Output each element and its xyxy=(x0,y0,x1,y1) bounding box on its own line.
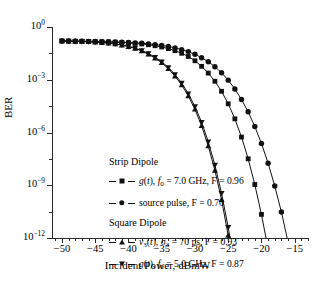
data-marker xyxy=(232,116,237,121)
legend-group-heading: Strip Dipole xyxy=(109,153,244,170)
data-marker xyxy=(219,70,224,75)
legend-marker-circle-icon xyxy=(109,198,135,208)
y-tick-label: 100 xyxy=(31,21,45,31)
data-marker xyxy=(199,123,205,128)
x-tick-minor xyxy=(175,238,176,241)
data-marker xyxy=(199,64,204,69)
x-tick-label: −25 xyxy=(220,243,236,254)
legend-marker-square-icon xyxy=(109,176,135,186)
data-marker xyxy=(246,156,251,161)
x-tick-minor xyxy=(248,238,249,241)
y-tick-major xyxy=(47,185,52,186)
x-tick-label: −45 xyxy=(87,243,103,254)
x-tick-minor xyxy=(135,238,136,241)
x-tick-minor xyxy=(215,238,216,241)
figure-canvas: BER 10010−310−610−910−12 Strip Dipoleg(t… xyxy=(0,0,315,283)
data-marker xyxy=(219,89,224,94)
data-marker xyxy=(259,141,264,146)
x-axis-title: Incident Power, dBmW xyxy=(0,259,315,271)
x-tick-minor xyxy=(281,238,282,241)
x-tick-minor xyxy=(308,238,309,241)
data-marker xyxy=(226,101,231,106)
data-marker xyxy=(192,106,198,111)
x-tick-label: −30 xyxy=(187,243,203,254)
x-tick-minor xyxy=(255,238,256,241)
legend-entry-label: g(t), f0 = 7.0 GHz, F = 0.96 xyxy=(139,176,244,186)
data-marker xyxy=(245,109,250,114)
plot-area: Strip Dipoleg(t), f0 = 7.0 GHz, F = 0.96… xyxy=(52,27,308,238)
data-marker xyxy=(232,86,237,91)
y-tick-label: 10−12 xyxy=(23,232,45,242)
data-marker xyxy=(205,143,211,148)
x-tick-minor xyxy=(115,238,116,241)
y-tick-minor xyxy=(49,212,52,213)
legend-entry-strip_gt_7ghz[interactable]: g(t), f0 = 7.0 GHz, F = 0.96 xyxy=(109,170,244,192)
data-marker xyxy=(146,42,151,47)
data-marker xyxy=(185,93,191,98)
y-tick-minor xyxy=(49,106,52,107)
data-marker xyxy=(206,71,211,76)
data-marker xyxy=(133,41,138,46)
data-marker xyxy=(166,46,171,51)
x-tick-minor xyxy=(242,238,243,241)
x-tick-minor xyxy=(202,238,203,241)
x-tick-label: −35 xyxy=(153,243,169,254)
data-marker xyxy=(213,79,218,84)
data-marker xyxy=(239,135,244,140)
y-tick-label: 10−9 xyxy=(27,179,45,189)
data-marker xyxy=(193,58,198,63)
x-tick-minor xyxy=(268,238,269,241)
data-marker xyxy=(259,212,264,217)
data-marker xyxy=(186,54,191,59)
legend-entry-strip_source_pulse[interactable]: source pulse, F = 0.70 xyxy=(109,192,244,214)
x-tick-label: −50 xyxy=(54,243,70,254)
x-tick-minor xyxy=(275,238,276,241)
y-tick-label: 10−6 xyxy=(27,127,45,137)
x-tick-label: −20 xyxy=(253,243,269,254)
y-tick-minor xyxy=(49,53,52,54)
y-axis-title: BER xyxy=(2,97,14,118)
data-marker xyxy=(206,59,211,64)
data-marker xyxy=(226,77,231,82)
x-tick-minor xyxy=(69,238,70,241)
x-tick-minor xyxy=(155,238,156,241)
x-tick-minor xyxy=(82,238,83,241)
y-tick-major xyxy=(47,80,52,81)
data-marker xyxy=(252,124,257,129)
data-marker xyxy=(139,42,144,47)
x-tick-minor xyxy=(301,238,302,241)
data-marker xyxy=(265,160,270,165)
data-marker xyxy=(212,64,217,69)
x-tick-minor xyxy=(188,238,189,241)
data-marker xyxy=(279,209,284,214)
x-tick-minor xyxy=(182,238,183,241)
data-marker xyxy=(153,43,158,48)
x-tick-label: −15 xyxy=(286,243,302,254)
y-tick-label: 10−3 xyxy=(27,74,45,84)
data-marker xyxy=(173,48,178,53)
data-marker xyxy=(252,182,257,187)
x-tick-minor xyxy=(235,238,236,241)
legend-group-heading: Square Dipole xyxy=(109,214,244,231)
data-marker xyxy=(199,55,204,60)
data-marker xyxy=(186,49,191,54)
x-tick-minor xyxy=(288,238,289,241)
x-tick-label: −40 xyxy=(120,243,136,254)
x-tick-minor xyxy=(75,238,76,241)
data-marker xyxy=(159,45,164,50)
x-tick-minor xyxy=(208,238,209,241)
data-marker xyxy=(239,97,244,102)
x-tick-minor xyxy=(55,238,56,241)
x-tick-minor xyxy=(109,238,110,241)
x-tick-minor xyxy=(102,238,103,241)
x-tick-minor xyxy=(122,238,123,241)
y-tick-major xyxy=(47,133,52,134)
x-tick-minor xyxy=(148,238,149,241)
legend-entry-label: source pulse, F = 0.70 xyxy=(139,198,224,208)
y-tick-major xyxy=(47,27,52,28)
data-marker xyxy=(272,183,277,188)
data-marker xyxy=(179,51,184,56)
x-tick-minor xyxy=(89,238,90,241)
chart-legend: Strip Dipoleg(t), f0 = 7.0 GHz, F = 0.96… xyxy=(109,153,244,275)
data-marker xyxy=(192,52,197,57)
